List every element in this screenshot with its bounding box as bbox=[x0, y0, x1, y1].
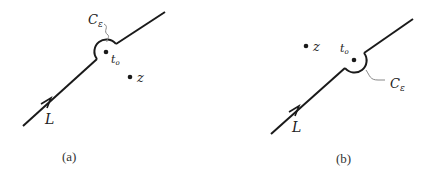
indent-leader-b bbox=[366, 70, 385, 80]
panel-b: to z Cε L (b) bbox=[271, 19, 413, 166]
pole-label-b: to bbox=[340, 42, 349, 56]
contour-l-upper-b bbox=[364, 19, 413, 53]
panel-a: Cε to z L (a) bbox=[23, 12, 165, 164]
point-z-label-b: z bbox=[312, 39, 320, 54]
contour-label-a: L bbox=[44, 111, 54, 127]
point-z-label-a: z bbox=[136, 70, 144, 85]
contour-l-lower-a bbox=[23, 59, 97, 126]
caption-b: (b) bbox=[336, 151, 351, 166]
contour-label-b: L bbox=[291, 119, 301, 135]
diagram-canvas: Cε to z L (a) to z Cε L (b) bbox=[0, 0, 436, 177]
indent-label-a: Cε bbox=[88, 12, 103, 29]
pole-label-a: to bbox=[111, 53, 120, 67]
contour-l-lower-b bbox=[271, 68, 345, 134]
point-z-a bbox=[128, 75, 133, 80]
point-z-b bbox=[304, 44, 309, 49]
indent-label-b: Cε bbox=[390, 76, 405, 93]
pole-point-b bbox=[352, 58, 357, 63]
pole-point-a bbox=[104, 50, 109, 55]
contour-l-upper-a bbox=[116, 12, 165, 44]
caption-a: (a) bbox=[62, 149, 76, 164]
diagram-svg: Cε to z L (a) to z Cε L (b) bbox=[0, 0, 436, 177]
